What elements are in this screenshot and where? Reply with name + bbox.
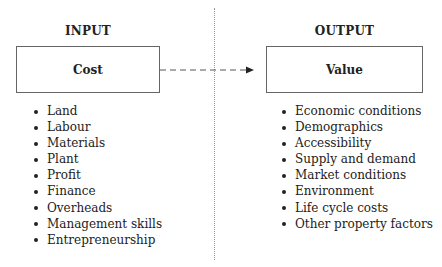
list-item: Management skills bbox=[34, 216, 162, 232]
output-heading: OUTPUT bbox=[266, 24, 423, 38]
list-item: Finance bbox=[34, 183, 162, 199]
bullet-icon bbox=[282, 174, 286, 178]
bullet-icon bbox=[34, 174, 38, 178]
bullet-icon bbox=[34, 158, 38, 162]
list-item: Accessibility bbox=[282, 135, 433, 151]
list-item: Supply and demand bbox=[282, 151, 433, 167]
list-item: Other property factors bbox=[282, 216, 433, 232]
bullet-icon bbox=[34, 222, 38, 226]
list-item: Materials bbox=[34, 135, 162, 151]
list-item: Land bbox=[34, 103, 162, 119]
bullet-icon bbox=[282, 142, 286, 146]
list-item: Economic conditions bbox=[282, 103, 433, 119]
value-box: Value bbox=[266, 46, 423, 93]
list-item: Entrepreneurship bbox=[34, 232, 162, 248]
bullet-icon bbox=[282, 126, 286, 130]
column-divider bbox=[214, 8, 215, 260]
list-item: Profit bbox=[34, 167, 162, 183]
bullet-icon bbox=[34, 206, 38, 210]
list-item: Life cycle costs bbox=[282, 200, 433, 216]
output-factor-list: Economic conditions Demographics Accessi… bbox=[282, 103, 433, 232]
bullet-icon bbox=[282, 206, 286, 210]
list-item: Labour bbox=[34, 119, 162, 135]
input-factor-list: Land Labour Materials Plant Profit Finan… bbox=[34, 103, 162, 248]
input-heading: INPUT bbox=[16, 24, 160, 38]
bullet-icon bbox=[282, 190, 286, 194]
bullet-icon bbox=[282, 110, 286, 114]
list-item: Market conditions bbox=[282, 167, 433, 183]
cost-box-label: Cost bbox=[73, 63, 103, 77]
list-item: Plant bbox=[34, 151, 162, 167]
bullet-icon bbox=[34, 190, 38, 194]
bullet-icon bbox=[34, 110, 38, 114]
list-item: Environment bbox=[282, 183, 433, 199]
arrow-right-icon bbox=[160, 64, 260, 76]
cost-box: Cost bbox=[16, 46, 160, 93]
bullet-icon bbox=[34, 238, 38, 242]
bullet-icon bbox=[34, 142, 38, 146]
bullet-icon bbox=[282, 222, 286, 226]
value-box-label: Value bbox=[326, 63, 363, 77]
bullet-icon bbox=[282, 158, 286, 162]
list-item: Demographics bbox=[282, 119, 433, 135]
bullet-icon bbox=[34, 126, 38, 130]
list-item: Overheads bbox=[34, 200, 162, 216]
